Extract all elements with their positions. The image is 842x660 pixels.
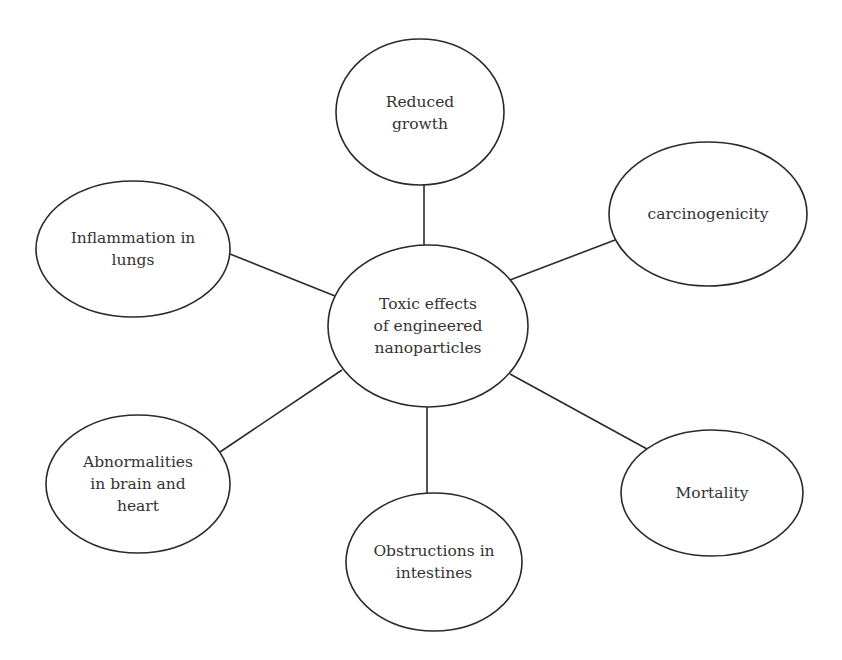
node-carcinogenicity-label: carcinogenicity — [609, 142, 807, 286]
nanoparticle-toxicity-diagram: Reduced growth carcinogenicity Inflammat… — [0, 0, 842, 660]
edge-center-inflammation — [230, 254, 335, 296]
node-reduced-growth-label: Reduced growth — [336, 40, 504, 185]
node-abnormalities-label: Abnormalities in brain and heart — [46, 415, 230, 553]
node-obstructions-label: Obstructions in intestines — [346, 493, 522, 631]
node-inflammation-label: Inflammation in lungs — [36, 181, 230, 317]
node-center-label: Toxic effects of engineered nanoparticle… — [328, 245, 528, 407]
edge-center-abnormalities — [220, 370, 342, 452]
node-mortality-label: Mortality — [621, 430, 803, 556]
